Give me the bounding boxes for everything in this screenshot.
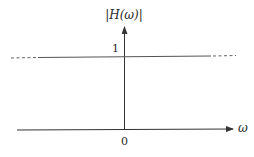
origin-label: 0 bbox=[121, 135, 128, 148]
magnitude-line-dashed-right bbox=[213, 56, 236, 57]
x-axis-label: ω bbox=[238, 121, 248, 135]
magnitude-line-solid bbox=[38, 56, 211, 58]
tick-label-one: 1 bbox=[112, 42, 119, 55]
magnitude-line-dashed-left bbox=[11, 58, 38, 59]
y-axis-label: |H(ω)| bbox=[105, 8, 143, 22]
magnitude-response-plot: |H(ω)| 1 0 ω bbox=[0, 0, 254, 157]
